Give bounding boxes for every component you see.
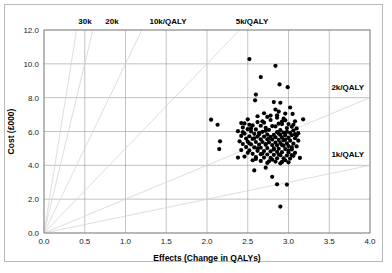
- x-axis-title: Effects (Change in QALYs): [153, 253, 261, 263]
- x-tick-label: 1.0: [120, 237, 132, 246]
- y-axis-title: Cost (£000): [6, 108, 16, 154]
- chart-figure: 0.00.51.01.52.02.53.03.54.0 0.02.04.06.0…: [0, 0, 392, 273]
- y-tick-label: 10.0: [23, 60, 39, 69]
- x-tick-label: 2.0: [201, 237, 213, 246]
- threshold-ray-labels: 30k20k10k/QALY5k/QALY2k/QALY1k/QALY: [78, 17, 364, 159]
- ray-label: 20k: [105, 17, 119, 26]
- cost-effectiveness-plane-svg: 0.00.51.01.52.02.53.03.54.0 0.02.04.06.0…: [0, 0, 392, 273]
- x-tick-label: 2.5: [242, 237, 254, 246]
- y-tick-label: 12.0: [23, 26, 39, 35]
- y-axis-tick-labels: 0.02.04.06.08.010.012.0: [23, 26, 39, 238]
- ray-label: 10k/QALY: [149, 17, 187, 26]
- ray-label: 1k/QALY: [331, 150, 364, 159]
- y-tick-label: 8.0: [28, 94, 40, 103]
- x-tick-label: 4.0: [364, 237, 376, 246]
- x-axis-tick-labels: 0.00.51.01.52.02.53.03.54.0: [38, 237, 376, 246]
- x-tick-label: 1.5: [161, 237, 173, 246]
- x-tick-label: 0.5: [79, 237, 91, 246]
- y-tick-label: 4.0: [28, 161, 40, 170]
- y-tick-label: 6.0: [28, 128, 40, 137]
- ray-label: 5k/QALY: [236, 17, 269, 26]
- x-tick-label: 3.0: [283, 237, 295, 246]
- x-tick-label: 3.5: [324, 237, 336, 246]
- y-tick-label: 0.0: [28, 229, 40, 238]
- y-tick-label: 2.0: [28, 195, 40, 204]
- x-tick-label: 0.0: [38, 237, 50, 246]
- scatter-plot-canvas: 0.00.51.01.52.02.53.03.54.0 0.02.04.06.0…: [0, 0, 392, 273]
- ray-label: 2k/QALY: [331, 83, 364, 92]
- scatter-point-layer: [209, 57, 305, 209]
- ray-label: 30k: [78, 17, 92, 26]
